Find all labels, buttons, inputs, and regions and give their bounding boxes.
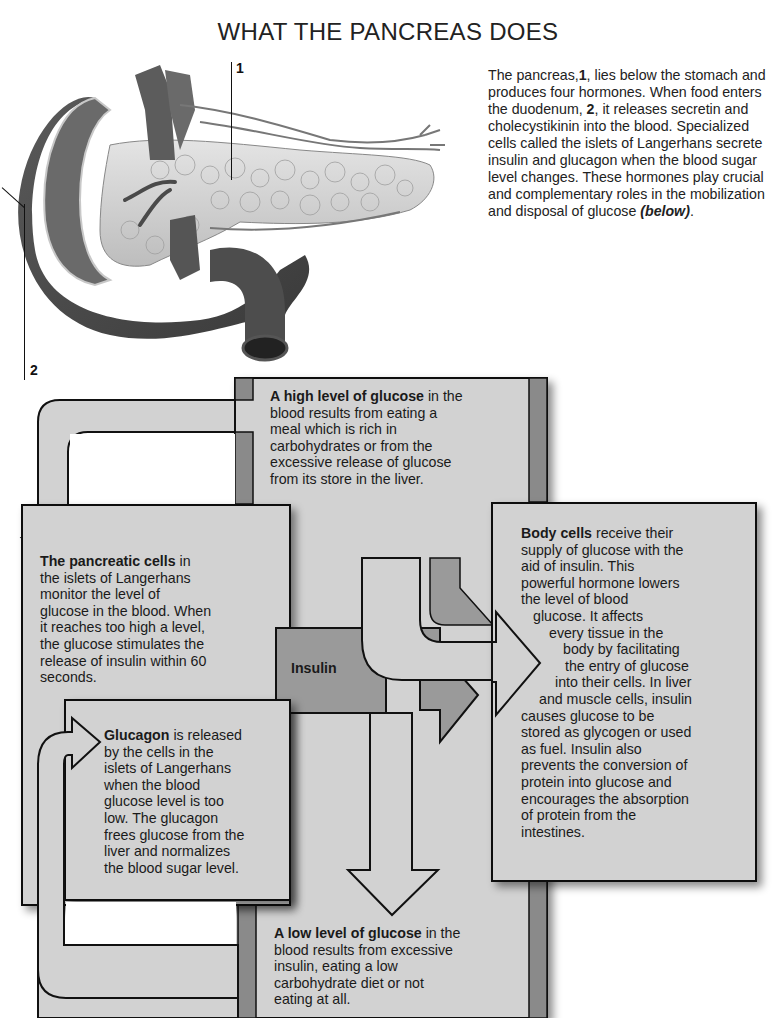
page-title: WHAT THE PANCREAS DOES — [0, 18, 776, 46]
label-1: 1 — [236, 60, 244, 76]
pancreas-illustration — [0, 50, 470, 380]
pancreatic-cells-text: The pancreatic cells in the islets of La… — [40, 553, 280, 686]
intro-paragraph: The pancreas,1, lies below the stomach a… — [488, 67, 776, 220]
glucagon-text: Glucagon is released by the cells in the… — [104, 727, 284, 876]
high-glucose-text: A high level of glucose in the blood res… — [270, 388, 530, 488]
insulin-label: Insulin — [291, 660, 337, 677]
low-glucose-text: A low level of glucose in the blood resu… — [274, 925, 529, 1008]
body-cells-text: Body cells receive their supply of gluco… — [521, 525, 756, 840]
pancreas-anatomy-icon — [0, 50, 470, 380]
glucose-flow-diagram: A high level of glucose in the blood res… — [0, 370, 776, 1018]
leader-line-1 — [231, 62, 232, 180]
leader-line-2 — [24, 204, 25, 380]
